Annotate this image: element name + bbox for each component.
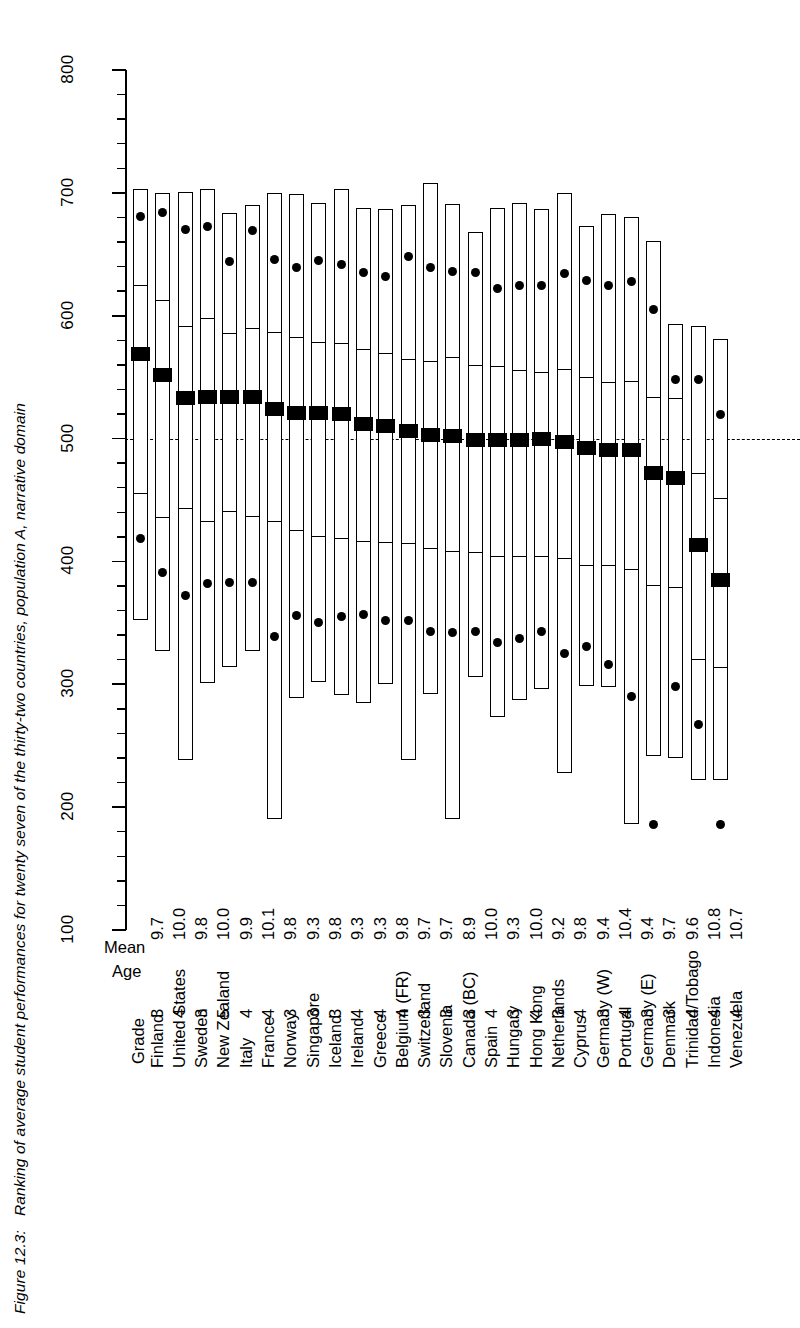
box-plot	[401, 20, 416, 930]
percentile-dot-high	[270, 255, 279, 264]
mean-marker	[466, 433, 485, 447]
axis-tick-label: 300	[58, 651, 78, 715]
mean-marker	[176, 391, 195, 405]
figure-number: Figure 12.3:	[11, 1230, 29, 1314]
country-label: Cyprus	[571, 1016, 590, 1068]
box-iqr-p25-p75	[401, 359, 416, 545]
mean-marker	[443, 429, 462, 443]
percentile-dot-high	[471, 268, 480, 277]
mean-age-value: 8.9	[460, 917, 479, 940]
country-label: Netherlands	[549, 979, 568, 1068]
box-plot	[579, 20, 594, 930]
mean-marker	[354, 417, 373, 431]
mean-marker	[421, 428, 440, 442]
mean-age-value: 10.0	[527, 908, 546, 940]
country-label: Sweden	[192, 1008, 211, 1068]
mean-age-value: 10.0	[482, 908, 501, 940]
percentile-dot-high	[604, 281, 613, 290]
box-plot	[624, 20, 639, 930]
mean-marker	[577, 441, 596, 455]
box-iqr-p25-p75	[512, 370, 527, 557]
country-label: Portugal	[616, 1007, 635, 1068]
mean-marker	[555, 435, 574, 449]
percentile-dot-high	[337, 260, 346, 269]
mean-marker	[510, 433, 529, 447]
percentile-dot-high	[181, 225, 190, 234]
box-plot	[646, 20, 661, 930]
percentile-dot-low	[471, 627, 480, 636]
mean-age-value: 9.8	[393, 917, 412, 940]
box-plot	[445, 20, 460, 930]
percentile-dot-low	[493, 638, 502, 647]
box-plot	[289, 20, 304, 930]
mean-age-value: 9.4	[638, 917, 657, 940]
box-iqr-p25-p75	[289, 337, 304, 531]
box-iqr-p25-p75	[445, 357, 460, 551]
box-plot	[713, 20, 728, 930]
percentile-dot-low	[359, 610, 368, 619]
mean-age-value: 9.7	[660, 917, 679, 940]
percentile-dot-low	[292, 611, 301, 620]
box-plot	[200, 20, 215, 930]
country-label: Singapore	[304, 993, 323, 1068]
mean-age-value: 9.7	[437, 917, 456, 940]
box-plot	[557, 20, 572, 930]
country-label: Germany (E)	[638, 974, 657, 1068]
percentile-dot-high	[627, 277, 636, 286]
percentile-dot-high	[649, 305, 658, 314]
axis-tick-label: 800	[58, 37, 78, 101]
percentile-dot-low	[694, 720, 703, 729]
chart-plot-area: 100200300400500600700800	[110, 20, 800, 930]
country-label: Greece	[371, 1014, 390, 1068]
mean-marker	[599, 443, 618, 457]
percentile-dot-low	[560, 649, 569, 658]
mean-age-value: 9.9	[237, 917, 256, 940]
box-plot	[668, 20, 683, 930]
grade-value: 4	[482, 1009, 501, 1018]
box-plot	[490, 20, 505, 930]
box-plot	[311, 20, 326, 930]
mean-age-value: 10.1	[259, 908, 278, 940]
box-plot	[155, 20, 170, 930]
mean-age-value: 10.0	[214, 908, 233, 940]
percentile-dot-high	[694, 375, 703, 384]
box-iqr-p25-p75	[267, 332, 282, 522]
box-iqr-p25-p75	[133, 285, 148, 494]
country-label: Hong Kong	[527, 985, 546, 1068]
box-iqr-p25-p75	[624, 381, 639, 570]
percentile-dot-high	[248, 226, 257, 235]
box-plot	[356, 20, 371, 930]
percentile-dot-low	[716, 820, 725, 829]
mean-marker	[488, 433, 507, 447]
box-plot	[133, 20, 148, 930]
box-plot	[178, 20, 193, 930]
mean-marker	[243, 390, 262, 404]
percentile-dot-low	[270, 632, 279, 641]
box-iqr-p25-p75	[601, 382, 616, 566]
country-label: Switzerland	[415, 983, 434, 1068]
mean-marker	[220, 390, 239, 404]
box-plot	[334, 20, 349, 930]
mean-marker	[131, 347, 150, 361]
country-label: Spain	[482, 1026, 501, 1068]
mean-age-value: 9.6	[683, 917, 702, 940]
percentile-dot-high	[537, 281, 546, 290]
percentile-dot-low	[627, 692, 636, 701]
box-iqr-p25-p75	[200, 318, 215, 522]
percentile-dot-low	[426, 627, 435, 636]
percentile-dot-high	[493, 284, 502, 293]
box-plot-series	[110, 20, 800, 930]
percentile-dot-low	[225, 578, 234, 587]
country-label: Ireland	[348, 1018, 367, 1068]
country-label: Hungary	[504, 1006, 523, 1068]
box-iqr-p25-p75	[490, 366, 505, 556]
figure-caption-text: Ranking of average student performances …	[11, 403, 29, 1216]
mean-age-value: 9.3	[371, 917, 390, 940]
percentile-dot-low	[248, 578, 257, 587]
box-iqr-p25-p75	[557, 369, 572, 559]
box-iqr-p25-p75	[222, 333, 237, 512]
axis-tick-label: 400	[58, 528, 78, 592]
mean-age-value: 9.8	[281, 917, 300, 940]
country-label: Italy	[237, 1038, 256, 1068]
header-grade: Grade	[129, 1018, 148, 1064]
